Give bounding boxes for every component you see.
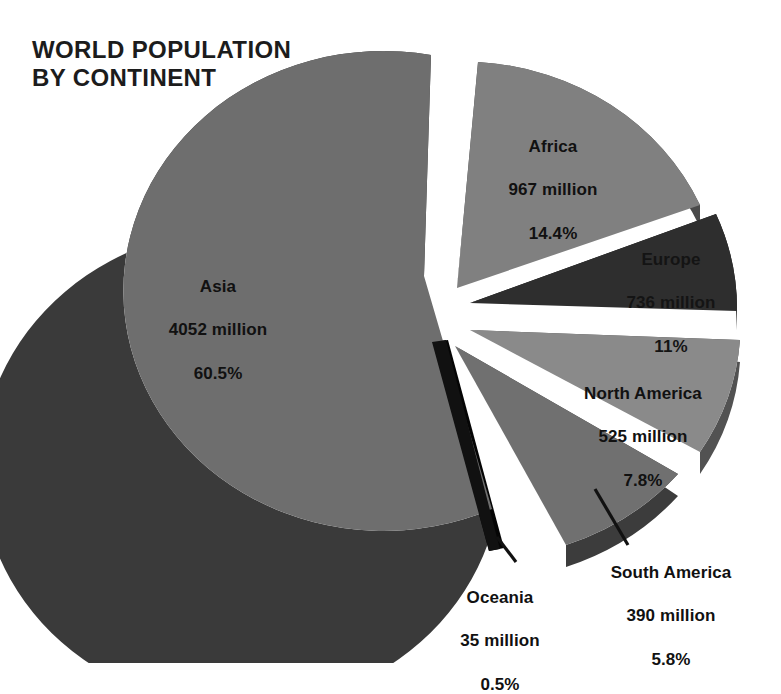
- slice-label-europe: Europe 736 million 11%: [588, 227, 754, 379]
- slice-label-north-america: North America 525 million 7.8%: [548, 361, 738, 513]
- slice-label-asia-name: Asia: [128, 276, 308, 298]
- slice-label-oceania: Oceania 35 million 0.5%: [430, 565, 570, 694]
- slice-label-oceania-value: 35 million: [430, 630, 570, 652]
- slice-label-africa-value: 967 million: [470, 179, 636, 201]
- slice-label-south-america: South America 390 million 5.8%: [578, 540, 764, 692]
- slice-label-europe-value: 736 million: [588, 292, 754, 314]
- slice-label-north-america-percent: 7.8%: [548, 470, 738, 492]
- chart-title: WORLD POPULATION BY CONTINENT: [32, 36, 291, 93]
- slice-label-africa-name: Africa: [470, 136, 636, 158]
- slice-label-europe-percent: 11%: [588, 336, 754, 358]
- slice-label-asia-value: 4052 million: [128, 319, 308, 341]
- slice-label-europe-name: Europe: [588, 249, 754, 271]
- slice-label-asia: Asia 4052 million 60.5%: [128, 254, 308, 406]
- slice-label-south-america-name: South America: [578, 562, 764, 584]
- slice-label-oceania-name: Oceania: [430, 587, 570, 609]
- slice-label-north-america-name: North America: [548, 383, 738, 405]
- slice-label-asia-percent: 60.5%: [128, 363, 308, 385]
- leader-line-oceania: [497, 537, 516, 562]
- slice-label-south-america-percent: 5.8%: [578, 649, 764, 671]
- slice-label-north-america-value: 525 million: [548, 426, 738, 448]
- slice-label-south-america-value: 390 million: [578, 605, 764, 627]
- slice-label-oceania-percent: 0.5%: [430, 674, 570, 694]
- antarctica-footnote: *Antarctica does not have a permanent po…: [143, 586, 320, 628]
